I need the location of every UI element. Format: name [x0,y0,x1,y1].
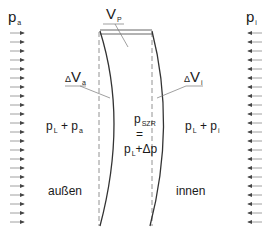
outside-label: außen [48,185,82,197]
inner-pressure-arrows [248,33,262,222]
inner-pressure-sum: pL + pi [185,120,220,134]
delta-v-outer-label: ΔVa [65,69,86,86]
dva-leader-line [80,86,110,98]
outer-pressure-arrows [10,33,24,222]
inner-pressure-label: pi [246,9,257,26]
outer-pressure-sum: pL + pa [46,120,83,134]
outer-wall-curve [100,31,114,226]
vp-leader-line [115,24,128,47]
outer-pressure-label: pa [8,9,21,26]
wall-pressure-rhs: pL+Δp [124,143,157,157]
delta-v-inner-label: ΔVi [184,69,203,86]
volume-p-label: VP [106,6,122,23]
inside-label: innen [176,185,205,197]
equals-sign: = [136,128,143,140]
wall-pressure-label: pSZR [134,113,156,127]
